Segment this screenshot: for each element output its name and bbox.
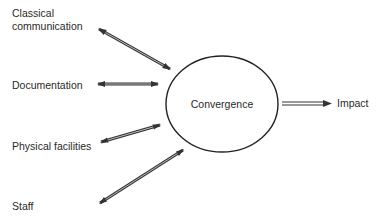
- label-convergence: Convergence: [191, 98, 254, 110]
- arrow-documentation: [97, 81, 159, 87]
- label-classical-communication-line2: communication: [12, 20, 83, 32]
- label-physical-facilities: Physical facilities: [12, 140, 91, 152]
- label-documentation: Documentation: [12, 79, 83, 91]
- arrow-impact: [282, 100, 332, 107]
- diagram-canvas: Classical communication Documentation Ph…: [0, 0, 377, 220]
- label-staff: Staff: [12, 200, 33, 212]
- label-classical-communication-line1: Classical: [12, 7, 54, 19]
- arrow-physical-facilities: [100, 125, 161, 143]
- arrow-classical-communication: [99, 29, 170, 69]
- arrow-staff: [99, 149, 184, 204]
- label-impact: Impact: [337, 97, 369, 109]
